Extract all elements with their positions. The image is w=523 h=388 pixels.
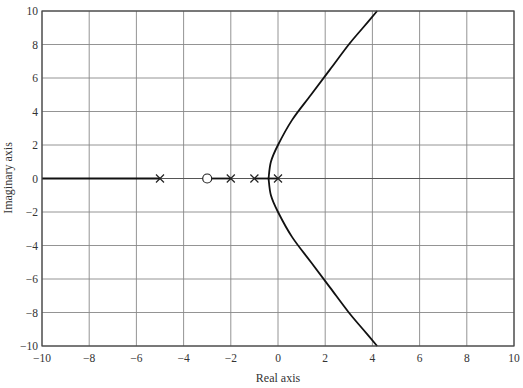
y-tick-label: −6 [26, 273, 38, 285]
y-axis-label: Imaginary axis [1, 142, 15, 214]
y-tick-label: 6 [32, 72, 38, 84]
root-locus-plot: −10−8−6−4−202468101086420−2−4−6−8−10 Rea… [0, 0, 523, 388]
y-tick-label: −4 [26, 240, 38, 252]
locus-branch [269, 11, 378, 179]
x-tick-label: 10 [508, 352, 520, 364]
y-tick-label: 2 [32, 139, 38, 151]
x-tick-label: −6 [130, 352, 142, 364]
x-tick-label: 2 [322, 352, 328, 364]
y-tick-label: −2 [26, 206, 38, 218]
x-tick-label: 8 [464, 352, 470, 364]
x-tick-label: −2 [225, 352, 237, 364]
x-axis-label: Real axis [256, 371, 301, 385]
x-tick-label: −4 [177, 352, 189, 364]
y-tick-label: 4 [32, 106, 38, 118]
x-tick-label: −8 [83, 352, 95, 364]
x-tick-label: 6 [417, 352, 423, 364]
y-tick-label: 0 [32, 173, 38, 185]
x-tick-label: 4 [370, 352, 376, 364]
locus-branch [269, 179, 378, 347]
y-tick-label: −8 [26, 307, 38, 319]
y-tick-label: 8 [32, 39, 38, 51]
x-tick-label: 0 [275, 352, 281, 364]
y-tick-label: −10 [20, 340, 38, 352]
x-tick-label: −10 [33, 352, 51, 364]
zero-marker [203, 174, 212, 183]
y-tick-label: 10 [27, 5, 39, 17]
